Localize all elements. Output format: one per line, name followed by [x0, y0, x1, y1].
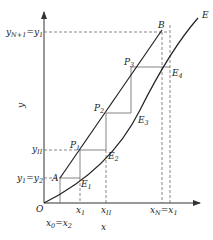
x-axis-label: x: [101, 222, 106, 232]
y-tick-bottom: y1=y2: [16, 173, 43, 185]
x-tick-n: xN=x1: [150, 205, 178, 217]
point-b-label: B: [157, 20, 165, 30]
y-tick-ii: yII: [31, 144, 43, 156]
point-e4-label: E4: [171, 68, 183, 80]
x-tick-1: x1: [76, 205, 85, 217]
point-p2-label: P2: [93, 103, 104, 115]
x-tick-ii: xII: [101, 205, 112, 217]
y-axis-label: y: [16, 102, 26, 109]
point-a-label: A: [51, 173, 59, 183]
stage-steps: [60, 67, 170, 203]
equilibrium-curve: [44, 18, 198, 203]
point-e1-label: E1: [80, 179, 92, 191]
point-e3-label: E3: [137, 115, 149, 127]
origin-label: O: [36, 204, 44, 214]
point-e2-label: E2: [107, 151, 119, 163]
curve-e-label: E: [201, 10, 209, 20]
stage-diagram: O y x E B A P1 P2 P3 E1 E2 E3 E4 yN+1=y1…: [0, 0, 213, 240]
point-p3-label: P3: [123, 57, 134, 69]
dashed-guides: [44, 25, 170, 203]
x-tick-0: x0=x2: [46, 218, 72, 230]
y-tick-top: yN+1=y1: [5, 27, 43, 39]
